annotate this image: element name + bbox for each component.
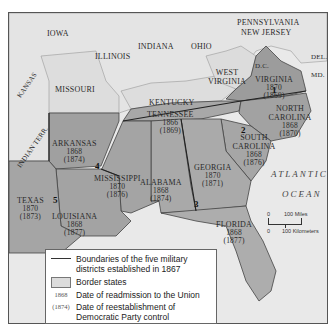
ocean-label-line2: OCEAN: [282, 189, 322, 199]
label-md: MD.: [311, 71, 325, 80]
label-louisiana: LOUISIANA 1868 (1877): [52, 212, 97, 237]
label-del: DEL.: [311, 53, 327, 62]
label-missouri: MISSOURI: [55, 85, 95, 94]
box-swatch-icon: [51, 277, 71, 288]
legend-item-democratic-control: (1874) Date of reestablishment of Democr…: [46, 302, 211, 322]
label-georgia: GEORGIA 1870 (1871): [194, 163, 231, 188]
label-mississippi: MISSISSIPPI 1870 (1876): [94, 174, 141, 199]
label-arkansas: ARKANSAS 1868 (1874): [52, 139, 97, 164]
label-iowa: IOWA: [47, 29, 69, 38]
legend-item-readmission: 1868 Date of readmission to the Union: [46, 290, 200, 300]
label-kentucky: KENTUCKY: [149, 98, 195, 107]
district-number-2: 2: [241, 125, 246, 135]
line-swatch-icon: [51, 258, 71, 259]
legend-item-border-states: Border states: [46, 277, 127, 288]
label-pennsylvania: PENNSYLVANIA: [237, 18, 299, 27]
district-number-3: 3: [194, 199, 199, 209]
label-new-jersey: NEW JERSEY: [241, 28, 292, 37]
label-dc: D.C.: [255, 62, 269, 71]
label-florida: FLORIDA 1868 (1877): [216, 220, 252, 245]
label-texas: TEXAS 1870 (1873): [17, 196, 44, 221]
district-number-5: 5: [53, 195, 58, 205]
legend-item-district-boundary: Boundaries of the five military district…: [46, 254, 211, 274]
label-alabama: ALABAMA 1868 (1874): [140, 178, 182, 203]
label-tennessee: TENNESSEE 1866 (1869): [147, 110, 194, 135]
label-ohio: OHIO: [191, 42, 212, 51]
legend: Boundaries of the five military district…: [45, 249, 217, 324]
label-west-virginia: WEST VIRGINIA: [205, 68, 249, 86]
label-indiana: INDIANA: [138, 42, 174, 51]
district-number-1: 1: [272, 85, 277, 95]
label-south-carolina: SOUTH CAROLINA 1868 (1876): [229, 133, 279, 167]
label-illinois: ILLINOIS: [95, 52, 130, 61]
district-number-4: 4: [95, 161, 100, 171]
ocean-label-line1: ATLANTIC: [271, 169, 328, 179]
